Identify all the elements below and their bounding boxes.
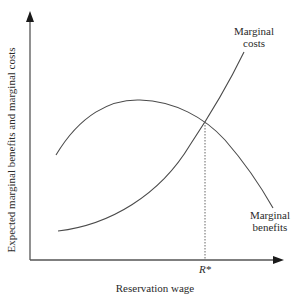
marginal-benefits-curve	[56, 100, 273, 208]
equilibrium-label: R*	[198, 263, 212, 275]
diagram-canvas: Marginal costs Marginal benefits R* Rese…	[0, 0, 296, 298]
marginal-costs-curve	[58, 52, 244, 231]
marginal-benefits-label-line2: benefits	[253, 221, 288, 233]
marginal-costs-label-line1: Marginal	[234, 25, 274, 37]
x-axis-label: Reservation wage	[116, 282, 195, 294]
y-axis-label: Expected marginal benefits and marginal …	[5, 47, 17, 252]
x-axis-arrowhead-icon	[273, 256, 284, 264]
marginal-benefits-label-line1: Marginal	[250, 209, 290, 221]
marginal-costs-label-line2: costs	[243, 37, 265, 49]
y-axis-arrowhead-icon	[26, 11, 34, 22]
